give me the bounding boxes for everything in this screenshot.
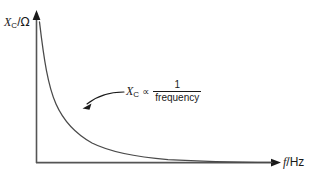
annotation-fraction: 1 frequency bbox=[153, 80, 201, 103]
y-axis-label: XC/Ω bbox=[4, 16, 30, 30]
proportionality-annotation: XC ∝ 1 frequency bbox=[126, 80, 201, 103]
annotation-subscript: C bbox=[133, 90, 139, 99]
x-axis-label: f/Hz bbox=[283, 156, 304, 168]
y-axis-unit: Ω bbox=[20, 15, 29, 29]
y-axis-arrowhead-icon bbox=[33, 10, 41, 20]
proportional-to-icon: ∝ bbox=[142, 87, 149, 97]
x-axis-unit: Hz bbox=[290, 155, 305, 169]
fraction-numerator: 1 bbox=[171, 80, 183, 91]
fraction-denominator: frequency bbox=[153, 92, 201, 103]
reactance-frequency-diagram: XC/Ω f/Hz XC ∝ 1 frequency bbox=[0, 0, 315, 186]
annotation-lhs: XC bbox=[126, 85, 139, 99]
y-axis bbox=[33, 10, 41, 163]
annotation-pointer bbox=[83, 92, 125, 110]
annotation-pointer-line bbox=[87, 92, 124, 104]
